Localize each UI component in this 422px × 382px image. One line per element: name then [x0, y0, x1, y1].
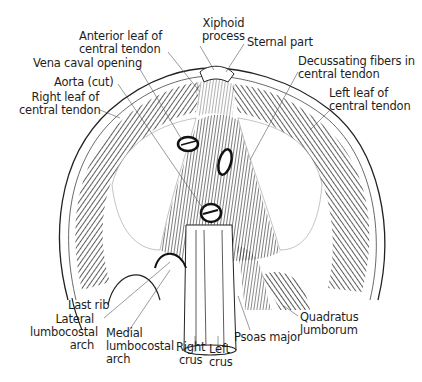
aorta-column	[184, 225, 236, 355]
label-psoas-major: Psoas major	[234, 331, 301, 344]
vena-caval-opening	[178, 137, 198, 151]
label-aorta-cut: Aorta (cut)	[54, 76, 114, 89]
label-last-rib: Last rib	[68, 299, 109, 312]
label-vena-caval-opening: Vena caval opening	[33, 57, 142, 70]
label-left-leaf: Left leaf of central tendon	[329, 87, 411, 113]
label-lateral-lumbocostal-arch: Lateral lumbocostal arch	[30, 313, 94, 352]
label-medial-lumbocostal-arch: Medial lumbocostal arch	[106, 327, 174, 366]
label-right-crus: Right crus	[176, 341, 205, 367]
lateral-arch	[108, 275, 160, 305]
label-xiphoid-process: Xiphoid process	[202, 17, 245, 43]
label-right-leaf: Right leaf of central tendon	[19, 91, 99, 117]
label-sternal-part: Sternal part	[247, 36, 313, 49]
sternal-fibers	[196, 80, 236, 118]
diaphragm-diagram: Xiphoid process Anterior leaf of central…	[0, 0, 422, 382]
label-decussating-fibers: Decussating fibers in central tendon	[298, 55, 415, 81]
label-quadratus-lumborum: Quadratus lumborum	[300, 311, 358, 337]
label-anterior-leaf: Anterior leaf of central tendon	[79, 30, 159, 56]
label-left-crus: Left crus	[209, 343, 233, 369]
